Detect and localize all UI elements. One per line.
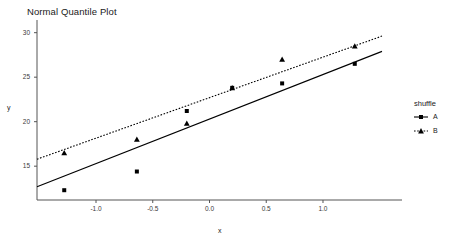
y-tick-label: 15 — [14, 162, 30, 169]
y-tick-label: 20 — [14, 118, 30, 125]
data-series — [37, 36, 382, 192]
y-tick-label: 25 — [14, 73, 30, 80]
x-tick-label: 0.5 — [253, 205, 279, 212]
normal-quantile-plot: Normal Quantile Plot y x shuffle A B 152… — [0, 0, 458, 244]
x-tick-label: -1.0 — [83, 205, 109, 212]
y-tick-label: 30 — [14, 29, 30, 36]
x-tick-label: 0.0 — [197, 205, 223, 212]
legend-glyphs — [414, 115, 428, 133]
plot-canvas — [0, 0, 458, 244]
x-tick-label: -0.5 — [140, 205, 166, 212]
x-tick-label: 1.0 — [310, 205, 336, 212]
axes — [34, 20, 402, 203]
